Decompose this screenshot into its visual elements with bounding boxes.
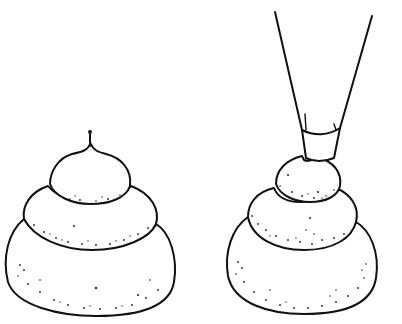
right-mound-with-piping-bag — [227, 12, 377, 314]
left-peak-dot — [88, 130, 92, 134]
left-finished-mound — [6, 130, 175, 316]
left-top-tier — [50, 144, 130, 204]
piping-nozzle — [302, 128, 340, 161]
nozzle-crease-right — [334, 124, 336, 130]
piping-bag-left-edge — [275, 12, 302, 130]
piping-bag — [275, 12, 372, 161]
right-top-tier — [276, 156, 340, 202]
illustration-canvas — [0, 0, 402, 324]
nozzle-crease-left — [305, 114, 306, 130]
piping-bag-right-edge — [340, 16, 372, 128]
piping-illustration — [0, 0, 402, 324]
